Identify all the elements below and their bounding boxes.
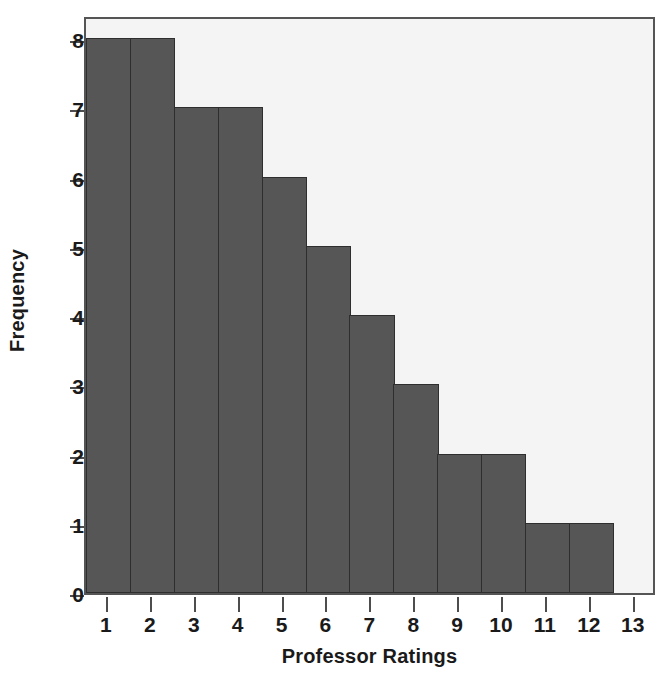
histogram-bar [218, 107, 263, 593]
x-tick-mark [238, 597, 240, 612]
y-tick-label: 6 [58, 168, 84, 192]
x-tick-label: 12 [567, 613, 611, 637]
x-axis-title: Professor Ratings [84, 645, 655, 668]
histogram-bar [525, 523, 570, 593]
x-tick-label: 10 [479, 613, 523, 637]
x-tick-label: 7 [347, 613, 391, 637]
x-tick-mark [457, 597, 459, 612]
histogram-bar [569, 523, 614, 593]
histogram-bar [481, 454, 526, 594]
x-tick-mark [369, 597, 371, 612]
x-tick-mark [325, 597, 327, 612]
y-tick-label: 7 [58, 98, 84, 122]
y-axis-ticks: 012345678 [38, 0, 84, 681]
y-tick-label: 5 [58, 237, 84, 261]
x-tick-label: 9 [435, 613, 479, 637]
histogram-bar [86, 38, 131, 593]
x-tick-mark [194, 597, 196, 612]
y-axis-title: Frequency [0, 0, 34, 600]
x-tick-mark [545, 597, 547, 612]
x-tick-mark [589, 597, 591, 612]
x-tick-mark [150, 597, 152, 612]
x-tick-label: 5 [260, 613, 304, 637]
x-tick-label: 2 [128, 613, 172, 637]
histogram-bar [349, 315, 394, 593]
histogram-figure: Frequency 012345678 12345678910111213 Pr… [0, 0, 670, 681]
x-tick-label: 11 [523, 613, 567, 637]
x-tick-mark [633, 597, 635, 612]
histogram-bar [174, 107, 219, 593]
x-tick-label: 3 [172, 613, 216, 637]
bars-container [86, 19, 653, 593]
x-tick-mark [501, 597, 503, 612]
y-tick-label: 4 [58, 306, 84, 330]
y-tick-label: 1 [58, 514, 84, 538]
x-tick-label: 6 [303, 613, 347, 637]
histogram-bar [262, 177, 307, 594]
x-tick-mark [106, 597, 108, 612]
y-axis-title-text: Frequency [6, 249, 29, 352]
plot-area [84, 17, 655, 595]
x-tick-label: 8 [391, 613, 435, 637]
histogram-bar [437, 454, 482, 594]
x-tick-label: 1 [84, 613, 128, 637]
histogram-bar [130, 38, 175, 593]
x-tick-mark [282, 597, 284, 612]
histogram-bar [393, 384, 438, 593]
x-tick-label: 4 [216, 613, 260, 637]
x-tick-mark [413, 597, 415, 612]
x-tick-label: 13 [611, 613, 655, 637]
y-tick-label: 3 [58, 375, 84, 399]
y-tick-label: 8 [58, 29, 84, 53]
y-tick-label: 2 [58, 445, 84, 469]
histogram-bar [306, 246, 351, 593]
